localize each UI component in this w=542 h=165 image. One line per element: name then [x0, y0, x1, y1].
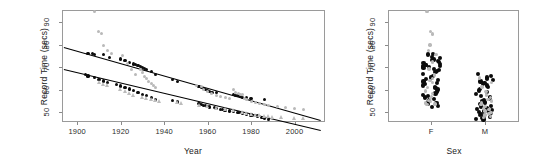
data-point-open [433, 102, 436, 105]
data-point-open [428, 43, 431, 46]
x-tick-panel1 [251, 122, 252, 125]
data-point-open [215, 94, 218, 97]
data-point-open [250, 100, 253, 103]
data-point-open [106, 49, 109, 52]
data-point-solid [150, 70, 153, 73]
data-point-open [431, 32, 434, 35]
data-point-triangle [279, 115, 283, 119]
plot-area-year [62, 10, 325, 122]
data-point-triangle [131, 93, 135, 97]
y-tick-panel2 [385, 67, 388, 68]
data-point-solid [474, 117, 478, 121]
y-tick-panel2 [385, 112, 388, 113]
x-tick-label-panel1: 2000 [286, 128, 304, 136]
x-tick-panel1 [121, 122, 122, 125]
data-point-open [254, 101, 257, 104]
y-tick-label-panel2: 70 [369, 59, 377, 75]
data-point-open [424, 89, 427, 92]
x-tick-panel1 [164, 122, 165, 125]
panel-record-time-vs-year: Record Time (secs) Year 1900192019401960… [0, 0, 330, 165]
data-point-open [195, 84, 198, 87]
x-axis-title-panel1: Year [184, 147, 202, 156]
data-point-open [202, 88, 205, 91]
y-tick-label-panel1: 90 [43, 14, 51, 30]
data-point-triangle [157, 99, 161, 103]
y-tick-label-panel1: 80 [43, 37, 51, 53]
y-tick-label-panel2: 90 [369, 14, 377, 30]
x-tick-label-panel1: 1920 [112, 128, 130, 136]
figure-canvas: Record Time (secs) Year 1900192019401960… [0, 0, 542, 165]
data-point-open [490, 99, 493, 102]
data-point-open [480, 85, 483, 88]
data-point-solid [483, 100, 487, 104]
y-tick-label-panel2: 80 [369, 37, 377, 53]
y-tick-panel2 [385, 45, 388, 46]
y-tick-label-panel1: 60 [43, 82, 51, 98]
x-tick-label-panel2: F [429, 128, 434, 136]
data-point-open [130, 68, 133, 71]
data-point-solid [421, 83, 425, 87]
y-tick-label-panel1: 50 [43, 104, 51, 120]
data-point-triangle [197, 103, 201, 107]
data-point-solid [86, 74, 89, 77]
y-tick-panel1 [59, 67, 62, 68]
y-tick-panel2 [385, 90, 388, 91]
data-point-open [102, 44, 105, 47]
data-point-solid [176, 80, 179, 83]
data-point-triangle [301, 116, 305, 120]
y-tick-panel1 [59, 90, 62, 91]
x-tick-panel1 [77, 122, 78, 125]
data-point-open [228, 97, 231, 100]
data-point-triangle [270, 115, 274, 119]
x-tick-panel2 [485, 122, 486, 125]
data-point-solid [421, 66, 425, 70]
data-point-open [263, 103, 266, 106]
data-point-open [485, 93, 488, 96]
data-point-open [425, 10, 428, 13]
x-tick-panel2 [431, 122, 432, 125]
data-point-open [302, 108, 305, 111]
data-point-open [219, 95, 222, 98]
x-tick-label-panel1: 1900 [68, 128, 86, 136]
data-point-triangle [231, 108, 235, 112]
x-tick-label-panel2: M [482, 128, 488, 136]
data-point-triangle [179, 101, 183, 105]
x-tick-label-panel1: 1940 [155, 128, 173, 136]
data-point-open [224, 96, 227, 99]
data-point-triangle [292, 116, 296, 120]
y-tick-panel1 [59, 112, 62, 113]
data-point-open [434, 53, 437, 56]
data-point-triangle [223, 107, 227, 111]
data-point-open [478, 76, 481, 79]
y-tick-panel1 [59, 45, 62, 46]
y-tick-label-panel2: 50 [369, 104, 377, 120]
data-point-triangle [105, 83, 109, 87]
data-point-solid [86, 52, 89, 55]
data-point-open [141, 71, 144, 74]
data-point-solid [433, 91, 437, 95]
y-tick-label-panel1: 70 [43, 59, 51, 75]
data-point-solid [119, 57, 122, 60]
y-tick-label-panel2: 60 [369, 82, 377, 98]
data-point-open [427, 67, 430, 70]
x-axis-title-panel2: Sex [446, 147, 461, 156]
y-tick-panel1 [59, 22, 62, 23]
data-point-solid [102, 53, 105, 56]
x-tick-label-panel1: 1960 [199, 128, 217, 136]
y-tick-panel2 [385, 22, 388, 23]
x-tick-panel1 [208, 122, 209, 125]
data-point-triangle [205, 104, 209, 108]
data-point-solid [263, 98, 266, 101]
plot-area-sex [388, 10, 519, 122]
data-point-open [482, 116, 485, 119]
data-point-triangle [214, 106, 218, 110]
panel-record-time-by-sex: Record Time (secs) Sex FM5060708090 [330, 0, 542, 165]
x-tick-label-panel1: 1980 [242, 128, 260, 136]
